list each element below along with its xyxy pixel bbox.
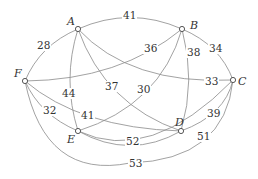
edge-A-E	[70, 29, 78, 131]
edge-F-B	[25, 29, 182, 81]
node-label-E: E	[66, 133, 75, 146]
weight-F-E: 32	[43, 104, 56, 116]
weight-A-B: 41	[123, 9, 136, 21]
weight-B-E: 30	[137, 83, 150, 95]
node-B	[179, 26, 184, 31]
weight-E-D: 52	[126, 135, 139, 147]
node-label-F: F	[13, 67, 22, 80]
weight-A-D: 37	[105, 80, 118, 92]
node-D	[178, 128, 183, 133]
weight-F-C: 53	[129, 157, 142, 169]
weight-A-F: 28	[37, 39, 50, 51]
graph-canvas: 41 28 34 36 38 33 44 37 30 32 41 39 52 5…	[0, 0, 258, 179]
weight-A-E: 44	[62, 87, 76, 99]
node-label-B: B	[189, 19, 198, 32]
weight-E-C: 51	[197, 130, 210, 142]
edge-A-C	[78, 29, 233, 80]
node-C	[230, 77, 235, 82]
node-label-D: D	[174, 116, 184, 129]
node-label-A: A	[66, 15, 75, 28]
edge-F-C	[25, 80, 233, 165]
weight-F-B: 36	[144, 42, 158, 54]
weight-B-D: 38	[187, 46, 200, 58]
node-F	[22, 78, 27, 83]
edge-weights: 41 28 34 36 38 33 44 37 30 32 41 39 52 5…	[36, 9, 223, 169]
node-A	[75, 26, 80, 31]
node-E	[75, 128, 80, 133]
node-label-C: C	[238, 75, 247, 88]
weight-B-C: 34	[209, 42, 223, 54]
weight-F-D: 41	[81, 109, 94, 121]
weight-D-C: 39	[207, 107, 220, 119]
weight-A-C: 33	[205, 75, 218, 87]
